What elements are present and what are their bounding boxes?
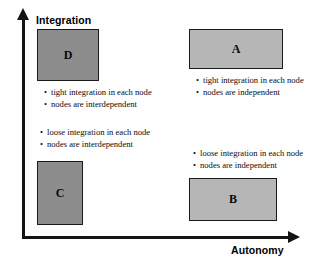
quadrant-bullets-a: tight integration in each node nodes are…: [196, 74, 304, 98]
quadrant-label-b: B: [229, 192, 237, 207]
list-item: nodes are independent: [196, 86, 304, 98]
list-item: nodes are interdependent: [40, 138, 150, 150]
list-item: tight integration in each node: [44, 86, 152, 98]
x-axis-label: Autonomy: [231, 244, 284, 256]
list-item: nodes are independent: [193, 159, 303, 171]
quadrant-box-b[interactable]: B: [189, 178, 277, 221]
quadrant-box-c[interactable]: C: [37, 161, 83, 225]
quadrant-bullets-d: tight integration in each node nodes are…: [44, 86, 152, 110]
list-item: loose integration in each node: [40, 126, 150, 138]
list-item: tight integration in each node: [196, 74, 304, 86]
quadrant-diagram-canvas: Integration Autonomy D tight integration…: [0, 0, 336, 271]
arrow-up-icon: [17, 8, 29, 20]
quadrant-label-c: C: [56, 186, 65, 201]
quadrant-bullets-c: loose integration in each node nodes are…: [40, 126, 150, 150]
y-axis-label: Integration: [36, 14, 91, 26]
quadrant-box-d[interactable]: D: [37, 29, 99, 81]
arrow-right-icon: [288, 231, 300, 243]
y-axis-line: [22, 18, 25, 239]
list-item: nodes are interdependent: [44, 98, 152, 110]
x-axis-line: [22, 236, 290, 239]
quadrant-bullets-b: loose integration in each node nodes are…: [193, 147, 303, 171]
list-item: loose integration in each node: [193, 147, 303, 159]
quadrant-label-d: D: [64, 48, 73, 63]
quadrant-label-a: A: [232, 42, 241, 57]
quadrant-box-a[interactable]: A: [189, 29, 283, 69]
